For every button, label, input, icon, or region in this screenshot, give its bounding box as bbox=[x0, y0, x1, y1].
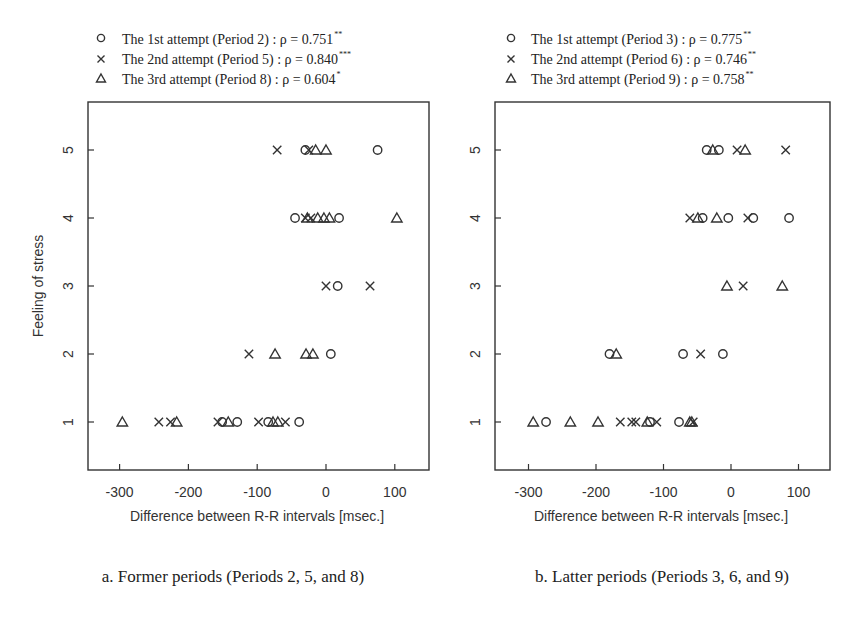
axes: -300-200-100010012345 bbox=[467, 146, 810, 500]
circle-marker-icon bbox=[97, 34, 104, 41]
legend-label: The 2nd attempt (Period 6) : ρ = 0.746 bbox=[531, 52, 747, 68]
axes: -300-200-100010012345 bbox=[60, 146, 407, 500]
circle-point-icon bbox=[233, 418, 241, 426]
cross-point-icon bbox=[155, 418, 163, 426]
legend-label: The 1st attempt (Period 2) : ρ = 0.751 bbox=[122, 32, 333, 48]
triangle-marker-icon bbox=[97, 74, 106, 82]
x-tick-label: -100 bbox=[243, 484, 271, 500]
legend-item-3rd-attempt: The 3rd attempt (Period 9) : ρ = 0.758 *… bbox=[507, 70, 754, 88]
triangle-point-icon bbox=[565, 417, 575, 426]
triangle-point-icon bbox=[777, 281, 787, 290]
cross-point-icon bbox=[245, 350, 253, 358]
panel-latter-periods: The 1st attempt (Period 3) : ρ = 0.775 *… bbox=[467, 30, 830, 586]
circle-point-icon bbox=[291, 214, 299, 222]
legend: The 1st attempt (Period 2) : ρ = 0.751 *… bbox=[97, 30, 351, 88]
x-axis-label: Difference between R-R intervals [msec.] bbox=[534, 508, 788, 524]
y-tick-label: 3 bbox=[467, 282, 483, 290]
triangle-point-icon bbox=[392, 213, 402, 222]
triangle-point-icon bbox=[270, 349, 280, 358]
y-tick-label: 3 bbox=[60, 282, 76, 290]
legend-label: The 1st attempt (Period 3) : ρ = 0.775 bbox=[531, 32, 742, 48]
circle-point-icon bbox=[724, 214, 732, 222]
triangle-marker-icon bbox=[507, 74, 516, 82]
triangle-point-icon bbox=[593, 417, 603, 426]
legend-item-3rd-attempt: The 3rd attempt (Period 8) : ρ = 0.604 * bbox=[97, 70, 341, 88]
cross-point-icon bbox=[696, 350, 704, 358]
cross-marker-icon bbox=[508, 56, 515, 63]
y-tick-label: 5 bbox=[467, 146, 483, 154]
legend-item-2nd-attempt: The 2nd attempt (Period 6) : ρ = 0.746 *… bbox=[508, 50, 756, 68]
legend-significance: ** bbox=[746, 70, 754, 79]
cross-point-icon bbox=[628, 418, 636, 426]
x-tick-label: 100 bbox=[787, 484, 811, 500]
legend-label: The 3rd attempt (Period 9) : ρ = 0.758 bbox=[531, 72, 745, 88]
circle-point-icon bbox=[675, 418, 683, 426]
cross-point-icon bbox=[781, 146, 789, 154]
x-tick-label: -200 bbox=[582, 484, 610, 500]
y-tick-label: 4 bbox=[60, 214, 76, 222]
legend-item-1st-attempt: The 1st attempt (Period 2) : ρ = 0.751 *… bbox=[97, 30, 342, 48]
x-tick-label: 0 bbox=[322, 484, 330, 500]
y-tick-label: 4 bbox=[467, 214, 483, 222]
triangle-point-icon bbox=[722, 281, 732, 290]
y-axis-label: Feeling of stress bbox=[30, 235, 46, 338]
x-tick-label: -300 bbox=[106, 484, 134, 500]
triangle-point-icon bbox=[321, 145, 331, 154]
figure-caption: a. Former periods (Periods 2, 5, and 8) bbox=[102, 567, 365, 586]
legend-significance: ** bbox=[743, 30, 751, 39]
cross-point-icon bbox=[366, 282, 374, 290]
legend-significance: ** bbox=[334, 30, 342, 39]
figure-caption: b. Latter periods (Periods 3, 6, and 9) bbox=[535, 567, 789, 586]
data-points bbox=[528, 145, 793, 426]
circle-point-icon bbox=[295, 418, 303, 426]
circle-point-icon bbox=[542, 418, 550, 426]
plot-frame bbox=[88, 102, 429, 470]
legend-significance: ** bbox=[748, 50, 756, 59]
y-tick-label: 1 bbox=[60, 418, 76, 426]
legend-significance: * bbox=[337, 70, 341, 79]
legend: The 1st attempt (Period 3) : ρ = 0.775 *… bbox=[507, 30, 756, 88]
cross-point-icon bbox=[322, 282, 330, 290]
circle-point-icon bbox=[327, 350, 335, 358]
cross-point-icon bbox=[632, 418, 640, 426]
cross-point-icon bbox=[273, 146, 281, 154]
cross-marker-icon bbox=[98, 56, 105, 63]
data-points bbox=[117, 145, 402, 426]
cross-point-icon bbox=[616, 418, 624, 426]
triangle-point-icon bbox=[172, 417, 182, 426]
panel-former-periods: The 1st attempt (Period 2) : ρ = 0.751 *… bbox=[30, 30, 429, 586]
y-tick-label: 2 bbox=[60, 350, 76, 358]
legend-significance: *** bbox=[339, 50, 351, 59]
x-tick-label: -200 bbox=[174, 484, 202, 500]
y-tick-label: 1 bbox=[467, 418, 483, 426]
circle-point-icon bbox=[785, 214, 793, 222]
x-tick-label: -300 bbox=[514, 484, 542, 500]
circle-point-icon bbox=[719, 350, 727, 358]
circle-point-icon bbox=[335, 214, 343, 222]
x-tick-label: -100 bbox=[649, 484, 677, 500]
x-tick-label: 0 bbox=[727, 484, 735, 500]
y-tick-label: 5 bbox=[60, 146, 76, 154]
legend-label: The 3rd attempt (Period 8) : ρ = 0.604 bbox=[122, 72, 336, 88]
x-axis-label: Difference between R-R intervals [msec.] bbox=[130, 508, 384, 524]
cross-point-icon bbox=[214, 418, 222, 426]
legend-item-1st-attempt: The 1st attempt (Period 3) : ρ = 0.775 *… bbox=[507, 30, 751, 48]
cross-point-icon bbox=[744, 214, 752, 222]
cross-point-icon bbox=[739, 282, 747, 290]
triangle-point-icon bbox=[117, 417, 127, 426]
figure: The 1st attempt (Period 2) : ρ = 0.751 *… bbox=[0, 0, 861, 617]
y-tick-label: 2 bbox=[467, 350, 483, 358]
legend-item-2nd-attempt: The 2nd attempt (Period 5) : ρ = 0.840 *… bbox=[98, 50, 351, 68]
circle-point-icon bbox=[373, 146, 381, 154]
triangle-point-icon bbox=[528, 417, 538, 426]
triangle-point-icon bbox=[712, 213, 722, 222]
circle-marker-icon bbox=[507, 34, 514, 41]
circle-point-icon bbox=[333, 282, 341, 290]
x-tick-label: 100 bbox=[383, 484, 407, 500]
circle-point-icon bbox=[679, 350, 687, 358]
cross-point-icon bbox=[254, 418, 262, 426]
legend-label: The 2nd attempt (Period 5) : ρ = 0.840 bbox=[122, 52, 338, 68]
